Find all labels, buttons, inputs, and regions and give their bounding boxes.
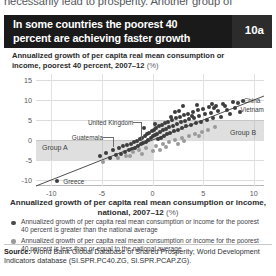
source-label: Source: xyxy=(4,247,31,256)
scatter-point xyxy=(184,124,188,128)
scatter-point xyxy=(197,134,201,138)
scatter-point xyxy=(197,114,201,118)
scatter-point xyxy=(140,152,144,156)
legend-marker-dark-dot xyxy=(11,221,16,226)
country-annotation-label: Guatemala xyxy=(72,133,103,140)
scatter-point xyxy=(223,104,227,108)
scatter-point xyxy=(203,112,207,116)
scatter-point xyxy=(190,114,194,118)
scatter-point xyxy=(210,102,214,106)
scatter-point xyxy=(154,144,158,148)
x-axis-title: Annualized growth of per capita real mea… xyxy=(4,198,272,218)
scatter-point xyxy=(200,130,204,134)
scatter-point xyxy=(187,117,191,121)
scatter-point xyxy=(144,146,148,150)
scatter-plot-area: -10-5051015-10-50510Group AGroup BGreece… xyxy=(36,74,264,186)
page-body-text: necessarily lead to prosperity. Another … xyxy=(0,0,276,13)
scatter-point xyxy=(236,101,240,105)
scatter-point xyxy=(153,122,157,126)
legend-item-label: Annualized growth of per capita real mea… xyxy=(21,218,268,234)
annotation-leader-line xyxy=(141,122,142,141)
scatter-point xyxy=(182,139,186,143)
scatter-point xyxy=(131,150,135,154)
body-text-line: necessarily lead to prosperity. Another … xyxy=(4,0,232,7)
scatter-point xyxy=(187,134,191,138)
country-annotation-label: Vietnam xyxy=(241,105,264,112)
scatter-point xyxy=(158,148,162,152)
y-axis-tick-label: -5 xyxy=(26,156,32,165)
x-axis-unit: (%) xyxy=(166,208,178,217)
figure-header: In some countries the poorest 40 percent… xyxy=(4,15,272,48)
scatter-point xyxy=(209,111,213,115)
scatter-point xyxy=(196,108,200,112)
y-axis-tick-label: 10 xyxy=(24,96,32,105)
y-axis-tick-label: 15 xyxy=(24,76,32,85)
source-text: World Bank Global Database of Shared Pro… xyxy=(4,247,260,265)
figure-body: Annualized growth of per capita real mea… xyxy=(4,48,272,272)
y-axis-tick-label: -10 xyxy=(22,176,32,185)
scatter-point xyxy=(142,126,146,130)
scatter-point xyxy=(212,106,216,110)
source-divider xyxy=(4,244,272,245)
scatter-point xyxy=(213,125,217,129)
legend-marker-light-dot xyxy=(11,239,16,244)
country-annotation-label: Greece xyxy=(63,177,84,184)
figure-title: In some countries the poorest 40 percent… xyxy=(13,18,209,45)
scatter-point xyxy=(228,112,232,116)
annotation-leader-line xyxy=(113,137,114,147)
scatter-point xyxy=(219,115,223,119)
y-axis-unit: (%) xyxy=(147,61,159,70)
x-axis-tick-label: -5 xyxy=(99,189,105,198)
annotation-leader-line xyxy=(133,122,141,123)
scatter-point xyxy=(128,154,132,158)
x-axis-tick-label: -10 xyxy=(46,189,56,198)
scatter-point xyxy=(108,156,112,160)
y-axis-title: Annualized growth of per capita real mea… xyxy=(12,51,242,70)
scatter-point xyxy=(207,105,211,109)
scatter-point xyxy=(151,149,155,153)
legend-item: Annualized growth of per capita real mea… xyxy=(10,218,268,234)
x-axis-title-text: Annualized growth of per capita real mea… xyxy=(10,198,266,217)
source-note: Source: World Bank Global Database of Sh… xyxy=(4,247,272,265)
scatter-point xyxy=(177,109,181,113)
x-axis-tick-label: 0 xyxy=(151,189,155,198)
x-axis-tick-label: 10 xyxy=(250,189,258,198)
x-axis-tick-label: 5 xyxy=(201,189,205,198)
y-axis-tick-label: 5 xyxy=(28,116,32,125)
scatter-point xyxy=(111,148,115,152)
scatter-point xyxy=(104,151,108,155)
scatter-point xyxy=(176,142,180,146)
scatter-point xyxy=(205,118,209,122)
scatter-point xyxy=(164,145,168,149)
scatter-point xyxy=(116,156,120,160)
scatter-point xyxy=(216,109,220,113)
scatter-point xyxy=(233,106,237,110)
scatter-point xyxy=(181,104,185,108)
scatter-point xyxy=(231,100,235,104)
scatter-point xyxy=(101,160,105,164)
country-annotation-label: China xyxy=(244,96,261,103)
scatter-point xyxy=(169,115,173,119)
scatter-point xyxy=(98,154,102,158)
y-axis-title-text: Annualized growth of per capita real mea… xyxy=(12,51,224,70)
scatter-point xyxy=(194,121,198,125)
scatter-point xyxy=(206,128,210,132)
scatter-point xyxy=(195,103,199,107)
scatter-point xyxy=(189,123,193,127)
figure-number: 10a xyxy=(245,24,264,36)
country-annotation-label: United Kingdom xyxy=(88,119,133,126)
scatter-point xyxy=(201,107,205,111)
scatter-point xyxy=(211,116,215,120)
annotation-leader-line xyxy=(103,137,113,138)
figure-page: necessarily lead to prosperity. Another … xyxy=(0,0,276,276)
scatter-point xyxy=(167,140,171,144)
y-axis-tick-label: 0 xyxy=(28,136,32,145)
scatter-point xyxy=(55,179,59,183)
scatter-point xyxy=(199,120,203,124)
